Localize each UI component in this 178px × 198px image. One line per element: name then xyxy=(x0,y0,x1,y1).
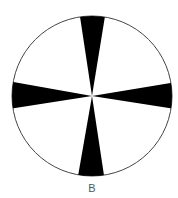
figure-label: B xyxy=(0,182,178,194)
cross-diagram xyxy=(0,0,178,198)
